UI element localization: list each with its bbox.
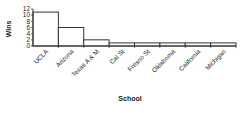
bar-arizona bbox=[58, 28, 83, 47]
y-axis-title: Wins bbox=[5, 21, 12, 38]
bars-group bbox=[33, 12, 236, 46]
x-axis: UCLAArizonaTexas A & MCal StFresno StOkl… bbox=[32, 46, 236, 78]
x-tick-label: Michigan bbox=[204, 47, 228, 71]
x-axis-title: School bbox=[118, 95, 141, 102]
bar-texas-a-m bbox=[84, 40, 109, 46]
x-tick-label: Texas A & M bbox=[70, 48, 100, 78]
y-tick-label: 0 bbox=[26, 42, 30, 49]
x-tick-label: UCLA bbox=[32, 47, 50, 65]
x-tick-label: Cal St bbox=[108, 48, 126, 66]
y-tick-label: 8 bbox=[26, 18, 30, 25]
y-tick-label: 2 bbox=[26, 36, 30, 43]
x-tick-label: California bbox=[177, 47, 202, 72]
y-tick-label: 4 bbox=[26, 30, 30, 37]
x-tick-label: Oklahoma bbox=[150, 47, 176, 73]
x-tick-label: Arizona bbox=[54, 47, 75, 68]
bar-ucla bbox=[33, 12, 58, 46]
x-tick-label: Fresno St bbox=[126, 48, 151, 73]
y-tick-label: 10 bbox=[23, 11, 31, 18]
y-tick-label: 6 bbox=[26, 24, 30, 31]
bar-chart: 024681012 UCLAArizonaTexas A & MCal StFr… bbox=[0, 0, 249, 113]
y-axis: 024681012 bbox=[23, 5, 33, 49]
y-tick-label: 12 bbox=[23, 5, 31, 12]
